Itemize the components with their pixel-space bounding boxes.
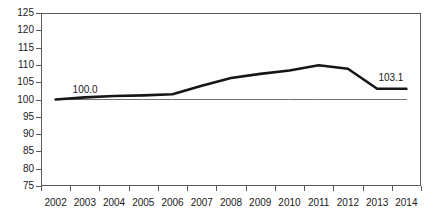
y-tick-mark xyxy=(36,82,41,83)
x-tick-label: 2014 xyxy=(395,198,417,208)
x-axis: 2002200320042005200620072008200920102011… xyxy=(0,186,435,218)
x-tick-mark xyxy=(187,186,188,191)
y-tick-mark xyxy=(36,48,41,49)
start-value-label: 100.0 xyxy=(73,85,98,95)
y-tick-mark xyxy=(36,117,41,118)
x-tick-mark xyxy=(421,186,422,191)
y-tick-mark xyxy=(36,151,41,152)
x-tick-label: 2007 xyxy=(191,198,213,208)
x-tick-label: 2006 xyxy=(161,198,183,208)
y-tick-label: 80 xyxy=(23,164,34,174)
y-tick-mark xyxy=(36,65,41,66)
y-tick-mark xyxy=(36,169,41,170)
end-value-label: 103.1 xyxy=(378,73,403,83)
x-tick-mark xyxy=(99,186,100,191)
x-tick-label: 2011 xyxy=(308,198,330,208)
x-tick-label: 2005 xyxy=(132,198,154,208)
x-tick-label: 2008 xyxy=(220,198,242,208)
y-tick-label: 125 xyxy=(17,8,34,18)
x-tick-mark xyxy=(304,186,305,191)
x-tick-mark xyxy=(158,186,159,191)
x-tick-mark xyxy=(41,186,42,191)
x-tick-label: 2010 xyxy=(278,198,300,208)
x-tick-mark xyxy=(363,186,364,191)
y-tick-label: 115 xyxy=(18,43,34,53)
x-tick-mark xyxy=(70,186,71,191)
y-tick-mark xyxy=(36,100,41,101)
line-chart: 1251201151101051009590858075 20022003200… xyxy=(0,0,435,218)
y-tick-label: 110 xyxy=(18,60,34,70)
x-tick-mark xyxy=(333,186,334,191)
y-tick-mark xyxy=(36,134,41,135)
x-tick-label: 2013 xyxy=(366,198,388,208)
y-tick-label: 90 xyxy=(23,129,34,139)
y-tick-label: 120 xyxy=(17,25,34,35)
x-tick-label: 2002 xyxy=(44,198,66,208)
x-tick-label: 2004 xyxy=(103,198,125,208)
y-tick-label: 85 xyxy=(23,146,34,156)
x-tick-label: 2012 xyxy=(337,198,359,208)
x-tick-label: 2003 xyxy=(74,198,96,208)
x-tick-mark xyxy=(129,186,130,191)
x-tick-mark xyxy=(246,186,247,191)
y-tick-label: 105 xyxy=(17,77,34,87)
y-tick-label: 95 xyxy=(23,112,34,122)
x-tick-label: 2009 xyxy=(249,198,271,208)
y-tick-mark xyxy=(36,13,41,14)
y-tick-label: 100 xyxy=(17,95,34,105)
x-tick-mark xyxy=(392,186,393,191)
x-tick-mark xyxy=(216,186,217,191)
y-tick-mark xyxy=(36,30,41,31)
plot-area xyxy=(41,13,421,186)
x-tick-mark xyxy=(275,186,276,191)
